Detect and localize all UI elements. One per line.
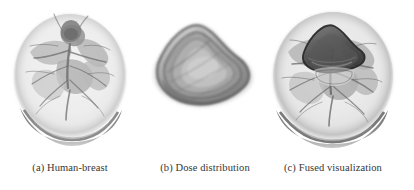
human-breast-volume-rendering xyxy=(0,0,140,158)
dose-distribution-volume-rendering xyxy=(140,0,270,158)
caption-dose-distribution: (b) Dose distribution xyxy=(140,162,270,173)
breast-texture-overlay xyxy=(14,14,126,138)
fused-texture-overlay xyxy=(273,12,393,140)
caption-row: (a) Human-breast (b) Dose distribution (… xyxy=(0,158,414,190)
fused-volume-rendering xyxy=(252,0,414,158)
caption-human-breast: (a) Human-breast xyxy=(0,162,140,173)
panel-human-breast xyxy=(0,0,140,158)
panel-fused-visualization xyxy=(252,0,414,158)
figure-container: (a) Human-breast (b) Dose distribution (… xyxy=(0,0,414,190)
panel-dose-distribution xyxy=(140,0,270,158)
caption-fused-visualization: (c) Fused visualization xyxy=(252,162,414,173)
